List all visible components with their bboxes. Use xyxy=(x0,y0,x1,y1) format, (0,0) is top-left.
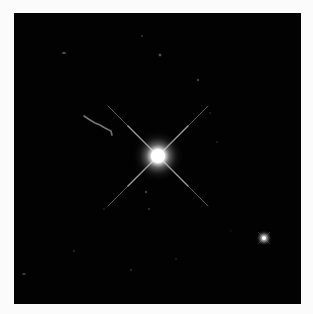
astronomical-image xyxy=(14,13,301,304)
faint-sources xyxy=(21,35,232,276)
jet-feature xyxy=(84,116,112,135)
secondary-star xyxy=(256,230,272,246)
star-field xyxy=(14,13,301,304)
